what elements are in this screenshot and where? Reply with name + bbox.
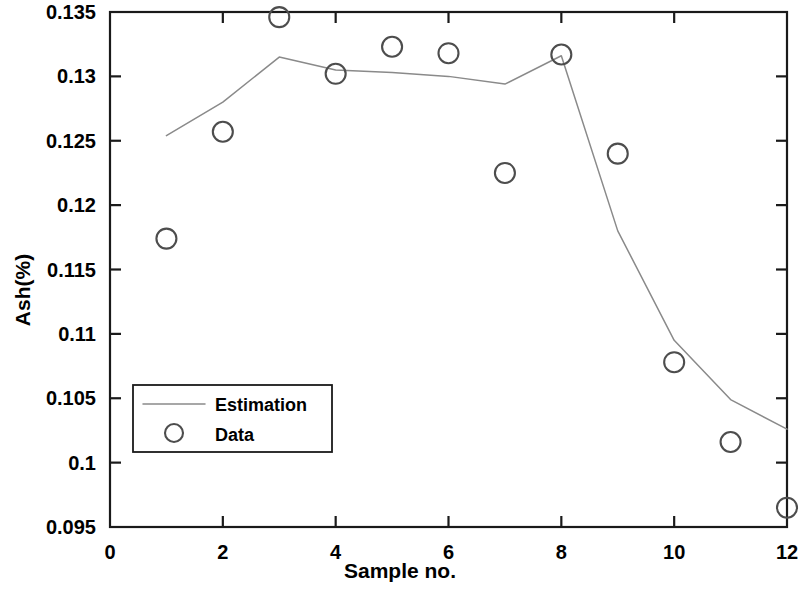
data-point-marker <box>269 7 289 27</box>
y-axis-title: Ash(%) <box>11 254 34 326</box>
y-tick-label: 0.12 <box>57 194 96 216</box>
x-tick-label: 10 <box>663 541 685 563</box>
x-axis-title: Sample no. <box>344 559 456 582</box>
y-tick-label: 0.115 <box>47 259 96 281</box>
estimation-line <box>166 56 787 429</box>
y-tick-label: 0.135 <box>46 1 96 23</box>
y-tick-label: 0.105 <box>46 387 96 409</box>
data-point-marker <box>382 37 402 57</box>
y-tick-label: 0.11 <box>58 323 96 345</box>
x-tick-label: 4 <box>330 541 342 563</box>
data-point-marker <box>156 229 176 249</box>
data-point-marker <box>664 352 684 372</box>
y-tick-label: 0.125 <box>46 130 96 152</box>
x-tick-label: 0 <box>104 541 115 563</box>
y-tick-label: 0.13 <box>57 65 96 87</box>
y-tick-label: 0.1 <box>68 452 96 474</box>
y-axis-tick-labels: 0.0950.10.1050.110.1150.120.1250.130.135 <box>46 1 96 538</box>
y-tick-label: 0.095 <box>46 516 96 538</box>
data-point-marker <box>721 432 741 452</box>
x-tick-label: 8 <box>556 541 567 563</box>
x-tick-label: 2 <box>217 541 228 563</box>
data-point-marker <box>551 44 571 64</box>
data-point-marker <box>495 163 515 183</box>
data-point-marker <box>608 144 628 164</box>
x-tick-label: 12 <box>776 541 798 563</box>
data-point-marker <box>326 64 346 84</box>
legend: Estimation Data <box>133 385 332 452</box>
legend-label-data: Data <box>215 425 255 445</box>
data-point-marker <box>439 43 459 63</box>
legend-label-estimation: Estimation <box>215 395 307 415</box>
ash-estimation-chart: 0.0950.10.1050.110.1150.120.1250.130.135… <box>0 0 801 591</box>
data-point-marker <box>213 122 233 142</box>
